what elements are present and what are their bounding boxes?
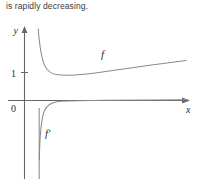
curve-label-f-prime: f′ <box>45 127 51 139</box>
y-axis-label: y <box>13 25 19 36</box>
origin-label-zero: 0 <box>11 103 16 114</box>
y-axis-arrow-icon <box>22 26 28 33</box>
graph-plot: y x 1 0 f f′ <box>0 0 197 179</box>
curve-label-f: f <box>101 48 106 60</box>
x-axis-label: x <box>185 104 191 115</box>
curve-f <box>38 29 186 75</box>
figure-container: is rapidly decreasing. y x 1 0 f f′ <box>0 0 197 179</box>
curve-f-prime <box>39 100 186 160</box>
x-axis-arrow-icon <box>182 98 190 104</box>
y-tick-label-one: 1 <box>11 68 16 79</box>
